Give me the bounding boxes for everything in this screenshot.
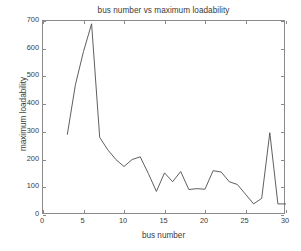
y-tick-mark-right [281,49,284,50]
x-tick-mark [84,210,85,213]
x-tick-mark-top [246,21,247,24]
x-tick-label: 25 [235,217,255,225]
y-tick-mark-right [281,21,284,22]
y-axis-label: maximum loadability [19,44,29,184]
y-tick-mark [43,49,46,50]
chart-title: bus number vs maximum loadability [42,6,285,16]
y-tick-mark [43,160,46,161]
y-tick-mark [43,187,46,188]
plot-area [42,20,285,214]
x-tick-label-group: 051015202530 [42,217,285,227]
y-tick-mark-right [281,132,284,133]
x-tick-mark [205,210,206,213]
x-tick-mark [246,210,247,213]
y-tick-mark [43,76,46,77]
x-axis-label: bus number [42,231,285,241]
x-tick-mark-top [43,21,44,24]
x-tick-mark-top [165,21,166,24]
y-tick-mark-right [281,76,284,77]
y-tick-mark-right [281,187,284,188]
y-tick-mark-right [281,104,284,105]
x-tick-mark [43,210,44,213]
figure-canvas: bus number vs maximum loadability 010020… [0,0,301,251]
x-tick-mark-top [205,21,206,24]
y-tick-mark [43,132,46,133]
x-tick-mark [165,210,166,213]
x-tick-label: 20 [194,217,214,225]
x-tick-label: 15 [154,217,174,225]
x-tick-mark-top [84,21,85,24]
x-tick-mark [286,210,287,213]
y-tick-mark [43,104,46,105]
x-tick-label: 0 [32,217,52,225]
x-tick-mark [124,210,125,213]
x-tick-mark-top [286,21,287,24]
series-polyline [67,24,286,204]
x-tick-label: 5 [73,217,93,225]
x-tick-label: 30 [275,217,295,225]
x-tick-label: 10 [113,217,133,225]
data-series-line [43,21,286,215]
x-tick-mark-top [124,21,125,24]
y-tick-label: 700 [17,16,39,24]
y-tick-mark-right [281,160,284,161]
